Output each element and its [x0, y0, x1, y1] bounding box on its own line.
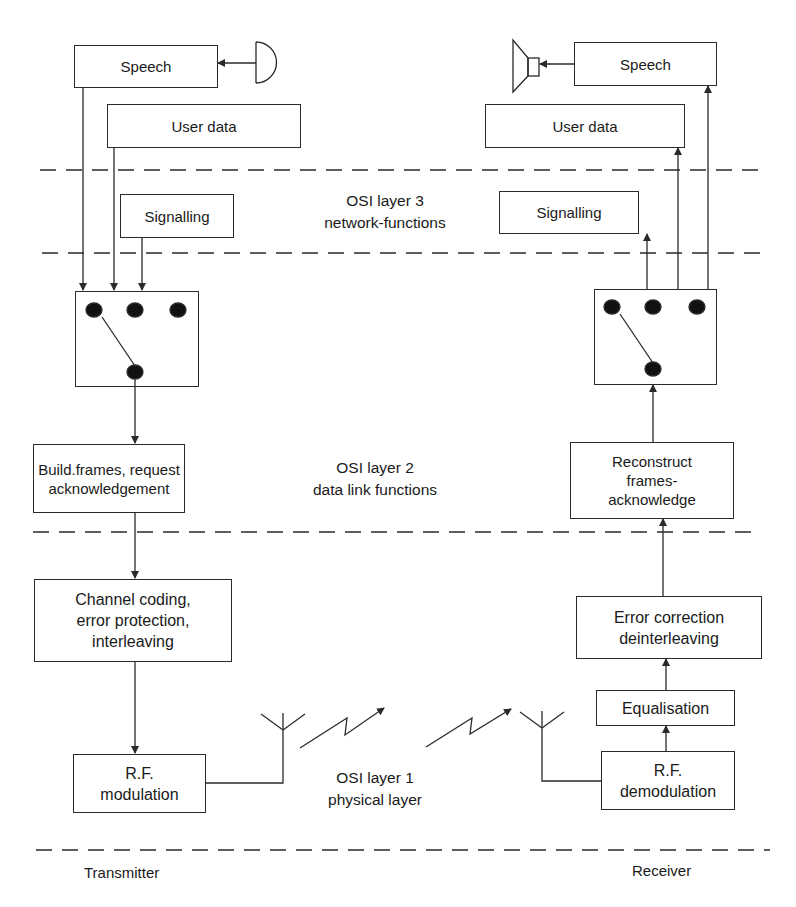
layer1-label: OSI layer 1 physical layer	[305, 767, 445, 811]
receiver-label: Receiver	[632, 862, 691, 879]
rx-error-correction-box: Error correction deinterleaving	[576, 596, 762, 659]
rx-rf-demodulation-box: R.F. demodulation	[601, 751, 735, 810]
layer3-label: OSI layer 3 network-functions	[300, 190, 470, 234]
tx-channel-coding-box: Channel coding, error protection, interl…	[34, 579, 232, 662]
rx-speech-box: Speech	[574, 42, 717, 86]
rx-antenna-icon	[520, 711, 601, 781]
tx-radio-wave-icon	[300, 708, 384, 748]
tx-speech-box: Speech	[74, 45, 218, 88]
tx-switch-box	[75, 291, 199, 387]
tx-user-data-box: User data	[107, 104, 301, 148]
transmitter-label: Transmitter	[84, 864, 159, 881]
tx-signalling-box: Signalling	[120, 194, 234, 238]
loudspeaker-icon	[513, 40, 539, 92]
layer2-label: OSI layer 2 data link functions	[290, 457, 460, 501]
tx-rf-modulation-box: R.F. modulation	[73, 754, 206, 813]
rx-switch-box	[594, 289, 717, 385]
tx-build-frames-box: Build.frames, request acknowledgement	[33, 444, 185, 513]
rx-user-data-box: User data	[485, 104, 685, 148]
rx-signalling-box: Signalling	[499, 191, 639, 234]
microphone-icon	[256, 42, 277, 83]
rx-reconstruct-box: Reconstruct frames- acknowledge	[570, 442, 734, 519]
rx-equalisation-box: Equalisation	[596, 690, 735, 726]
tx-antenna-icon	[205, 713, 305, 783]
rx-radio-wave-icon	[426, 709, 511, 747]
